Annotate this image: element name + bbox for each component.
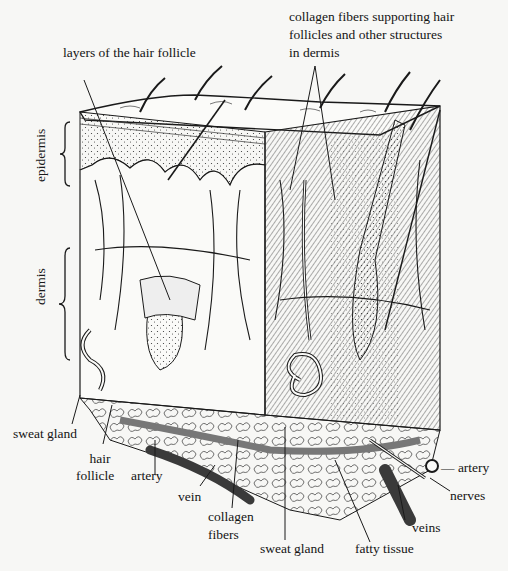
label-vein: vein [178, 488, 201, 505]
label-fatty-tissue: fatty tissue [355, 540, 414, 557]
label-collagen-fibers-bottom-line2: fibers [208, 526, 239, 543]
label-dermis: dermis [33, 268, 49, 305]
skin-cross-section-illustration [0, 0, 508, 571]
label-collagen-fibers-top-line3: in dermis [289, 44, 340, 61]
label-sweat-gland-bottom: sweat gland [260, 540, 324, 557]
label-hair-follicle-line2: follicle [76, 467, 114, 484]
label-collagen-fibers-top-line2: follicles and other structures [289, 26, 442, 43]
layer-braces [59, 122, 70, 360]
label-artery-left: artery [131, 467, 162, 484]
label-layers-of-hair-follicle: layers of the hair follicle [63, 44, 196, 61]
label-nerves: nerves [450, 487, 485, 504]
label-hair-follicle-line1: hair [80, 450, 120, 467]
label-collagen-fibers-bottom-line1: collagen [208, 508, 254, 525]
label-artery-right: — artery [441, 459, 489, 476]
label-veins: veins [412, 519, 441, 536]
label-epidermis: epidermis [33, 129, 49, 182]
label-sweat-gland-left: sweat gland [13, 425, 77, 442]
label-collagen-fibers-top-line1: collagen fibers supporting hair [289, 8, 454, 25]
